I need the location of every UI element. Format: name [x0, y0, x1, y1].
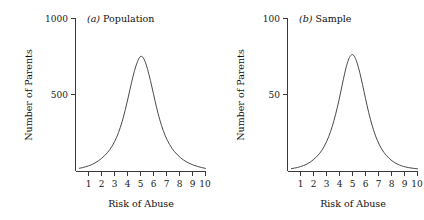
x-tick-label-5-a: 5	[138, 179, 144, 189]
chart-panel-a: (a)Population 1000 500 1 2	[0, 0, 212, 220]
x-tick-label-7-a: 7	[164, 179, 170, 189]
x-axis-title-a: Risk of Abuse	[108, 198, 174, 209]
y-tick-label-1000-a: 1000	[45, 14, 68, 24]
panel-title-text-a: Population	[103, 13, 154, 24]
x-tick-label-3-a: 3	[112, 179, 118, 189]
x-axis-title-b: Risk of Abuse	[320, 198, 386, 209]
chart-svg-b: (b)Sample 100 50 1 2	[212, 0, 424, 220]
y-axis-title-a: Number of Parents	[23, 49, 34, 141]
x-tick-label-1-a: 1	[86, 179, 92, 189]
x-tick-label-1-b: 1	[298, 179, 304, 189]
x-tick-label-6-a: 6	[151, 179, 157, 189]
chart-svg-a: (a)Population 1000 500 1 2	[0, 0, 212, 220]
x-tick-label-10-a: 10	[199, 179, 211, 189]
x-tick-label-3-b: 3	[324, 179, 330, 189]
y-tick-label-100-b: 100	[263, 14, 280, 24]
x-tick-label-8-b: 8	[389, 179, 395, 189]
x-tick-label-10-b: 10	[411, 179, 423, 189]
y-tick-label-500-a: 500	[51, 90, 68, 100]
x-tick-label-9-b: 9	[402, 179, 408, 189]
figure-container: (a)Population 1000 500 1 2	[0, 0, 424, 220]
panel-title-b: (b)Sample	[299, 13, 352, 24]
distribution-curve-b	[291, 55, 417, 169]
chart-panel-b: (b)Sample 100 50 1 2	[212, 0, 424, 220]
y-axis-title-b: Number of Parents	[235, 49, 246, 141]
x-ticks-group-b	[301, 172, 418, 177]
x-tick-labels-group-b: 1 2 3 4 5 6 7 8 9 10	[298, 179, 423, 189]
x-tick-label-4-b: 4	[337, 179, 343, 189]
x-tick-label-2-b: 2	[311, 179, 317, 189]
x-tick-label-8-a: 8	[177, 179, 183, 189]
distribution-curve-a	[79, 56, 205, 168]
panel-title-text-b: Sample	[316, 13, 352, 24]
x-tick-labels-group-a: 1 2 3 4 5 6 7 8 9 10	[86, 179, 211, 189]
x-tick-label-6-b: 6	[363, 179, 369, 189]
x-tick-label-9-a: 9	[190, 179, 196, 189]
x-tick-label-4-a: 4	[125, 179, 131, 189]
panel-tag-b: (b)	[299, 13, 313, 24]
panel-title-a: (a)Population	[87, 13, 154, 24]
x-tick-label-7-b: 7	[376, 179, 382, 189]
x-tick-label-5-b: 5	[350, 179, 356, 189]
y-tick-label-50-b: 50	[269, 90, 281, 100]
x-ticks-group-a	[89, 172, 206, 177]
panel-tag-a: (a)	[87, 13, 100, 24]
x-tick-label-2-a: 2	[99, 179, 105, 189]
